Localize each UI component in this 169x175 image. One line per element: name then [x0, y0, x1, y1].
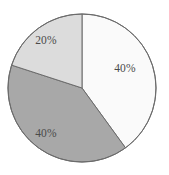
pie-chart-canvas: [0, 0, 169, 175]
pie-chart: 40% 40% 20%: [0, 0, 169, 175]
pie-slice-label-a: 40%: [114, 62, 136, 74]
pie-slice-label-c: 20%: [35, 34, 57, 46]
pie-slices-group: [8, 14, 156, 162]
pie-slice-label-b: 40%: [35, 127, 57, 139]
